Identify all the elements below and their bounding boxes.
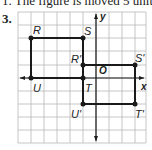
- label-r: R: [33, 24, 41, 36]
- label-t-prime: T': [135, 108, 145, 120]
- label-u: U: [33, 82, 41, 94]
- vertex-u-prime: [81, 102, 86, 107]
- label-u-prime: U': [71, 108, 82, 120]
- y-axis-arrow-up-icon: [94, 14, 98, 19]
- origin-label: O: [99, 65, 107, 76]
- vertex-u: [29, 76, 34, 81]
- vertex-t-prime: [133, 102, 138, 107]
- x-axis-label: x: [140, 81, 147, 92]
- label-t: T: [85, 82, 93, 94]
- coordinate-graph: R S T U R' S' T' U' O x y: [0, 0, 152, 150]
- vertex-r: [29, 36, 34, 41]
- y-axis-arrow-down-icon: [94, 136, 98, 141]
- x-axis-arrow-right-icon: [139, 76, 144, 80]
- label-s-prime: S': [135, 52, 145, 64]
- y-axis-label: y: [99, 11, 106, 22]
- vertex-r-prime: [81, 63, 86, 68]
- x-axis-arrow-left-icon: [20, 76, 25, 80]
- label-r-prime: R': [71, 53, 82, 65]
- label-s: S: [84, 25, 92, 37]
- vertex-t: [81, 76, 86, 81]
